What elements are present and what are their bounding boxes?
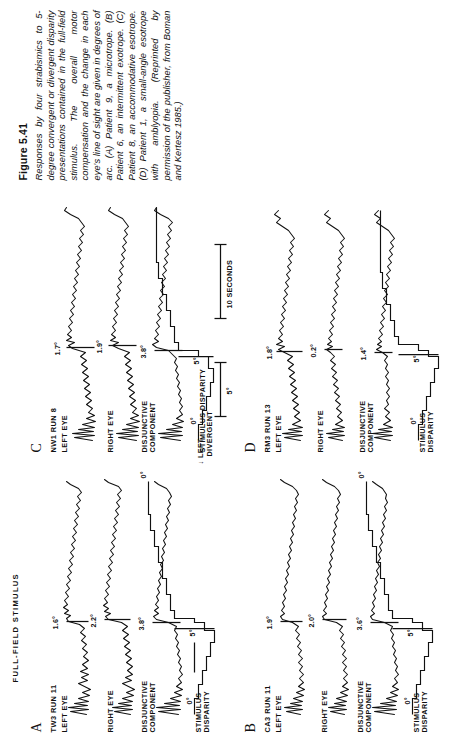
panel-b-trace-right-eye: [322, 479, 348, 714]
amplitude-scale-label: 5°: [224, 387, 233, 394]
panel-d-value-stimulus: 5°: [411, 355, 420, 362]
figure-number: Figure 5.41: [16, 12, 28, 180]
scale-bar-group: 5° 10 SECONDS: [208, 232, 242, 422]
panel-c-trace-stimulus-disparity: [156, 207, 213, 440]
time-scale-label: 10 SECONDS: [224, 259, 233, 308]
panel-b-trace-stimulus-disparity: [366, 481, 432, 714]
panel-a-value-disjunctive: 3.8°: [136, 616, 145, 630]
panel-d-trace-disjunctive: [372, 210, 394, 440]
panel-d-value-disjunctive: 1.4°: [358, 346, 367, 360]
panel-a-value-right-eye: 2.2°: [88, 613, 97, 627]
rotated-page-stage: Figure 5.41 Responses by four strabismic…: [0, 0, 465, 740]
panel-a-trace-left-eye: [63, 481, 90, 714]
panel-b-value-stimulus: 5°: [405, 629, 414, 636]
panel-c-value-stimulus: 5°: [191, 357, 200, 364]
panel-a-zero-top: 0°: [138, 471, 147, 478]
panel-b: B CA3 RUN 11 LEFT EYE RIGHT EYE DISJUNCT…: [236, 466, 448, 734]
panel-c-trace-right-eye: [108, 207, 139, 440]
panel-b-trace-disjunctive: [370, 481, 398, 714]
panel-b-zero-top: 0°: [356, 471, 365, 478]
panel-b-value-disjunctive: 3.6°: [354, 616, 363, 630]
panel-a: FULL-FIELD STIMULUS A TW3 RUN 11 LEFT EY…: [8, 466, 220, 734]
panel-d-trace-stimulus-disparity: [380, 210, 438, 440]
panel-a-trace-stimulus-disparity: [148, 481, 214, 714]
panel-d: D RM3 RUN 13 LEFT EYE RIGHT EYE DISJUNCT…: [240, 192, 450, 454]
panel-a-value-left-eye: 1.6°: [50, 615, 59, 629]
panel-d-trace-right-eye: [324, 210, 344, 440]
panel-b-value-left-eye: 1.9°: [264, 615, 273, 629]
panel-a-trace-right-eye: [103, 479, 134, 714]
panel-c-value-left-eye: 1.7°: [52, 341, 61, 355]
panel-a-trace-disjunctive: [153, 481, 182, 714]
divergent-arrow-icon: ↓: [195, 460, 204, 464]
panel-c-value-disjunctive: 3.8°: [138, 344, 147, 358]
panel-a-value-stimulus: 5°: [187, 629, 196, 636]
panel-c: C NW1 RUN 8 LEFT EYE RIGHT EYE DISJUNCTI…: [8, 192, 220, 454]
panel-d-value-left-eye: 1.8°: [264, 345, 273, 359]
panel-a-plot: [8, 466, 220, 734]
panel-d-value-right-eye: 0.2°: [308, 343, 317, 357]
panel-d-trace-left-eye: [274, 210, 302, 440]
figure-page: Figure 5.41 Responses by four strabismic…: [0, 0, 465, 740]
panel-b-trace-left-eye: [280, 479, 304, 714]
panel-c-plot: [8, 192, 220, 454]
figure-caption: Responses by four strabismics to 5-degre…: [32, 10, 183, 180]
panel-c-trace-left-eye: [64, 207, 95, 440]
panel-d-plot: [240, 192, 446, 454]
panel-b-value-right-eye: 2.0°: [306, 613, 315, 627]
panel-c-value-right-eye: 1.9°: [94, 339, 103, 353]
panel-b-plot: [236, 466, 442, 734]
